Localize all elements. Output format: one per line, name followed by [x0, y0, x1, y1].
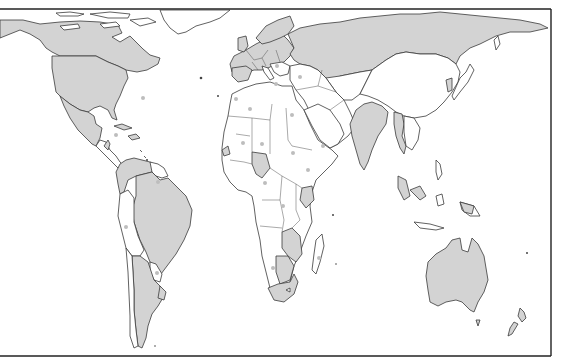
- philippines: [436, 160, 442, 180]
- sakhalin: [494, 36, 500, 50]
- new-guinea: [460, 202, 474, 214]
- sumatra-borneo: [398, 176, 426, 200]
- marker-dot: [141, 96, 145, 100]
- world-map: [0, 0, 562, 364]
- marker-dot: [290, 113, 294, 117]
- marker-dot: [234, 97, 238, 101]
- new-zealand: [508, 308, 526, 336]
- caribbean-dots: [140, 150, 146, 158]
- marker-dot: [114, 133, 118, 137]
- marker-dot: [263, 181, 267, 185]
- map-canvas: [0, 0, 562, 364]
- indochina: [404, 116, 420, 150]
- fiji-islet: [526, 252, 528, 254]
- marker-dot: [271, 266, 275, 270]
- mauritius-islet: [335, 263, 337, 265]
- marker-dot: [317, 256, 321, 260]
- cuba: [114, 124, 132, 130]
- europe: [230, 16, 294, 82]
- greenland: [160, 10, 230, 34]
- trinidad-islet: [146, 159, 148, 161]
- marker-dot: [281, 204, 285, 208]
- india: [350, 102, 388, 170]
- united-states: [52, 56, 128, 120]
- madagascar: [312, 234, 324, 274]
- falklands-islet: [154, 345, 156, 347]
- marker-dot: [274, 82, 278, 86]
- marker-dot: [241, 141, 245, 145]
- marker-dot: [124, 225, 128, 229]
- marker-dot: [291, 151, 295, 155]
- oceania: [426, 238, 526, 336]
- marker-dot: [248, 107, 252, 111]
- arctic-islands: [56, 12, 156, 30]
- marker-dot: [156, 180, 160, 184]
- marker-dot: [321, 144, 325, 148]
- australia: [426, 238, 488, 312]
- tasmania: [476, 320, 480, 326]
- marker-dot: [298, 75, 302, 79]
- hispaniola: [128, 134, 140, 140]
- canary-islet: [217, 95, 219, 97]
- iberia: [232, 66, 252, 82]
- balkans: [270, 62, 290, 76]
- azores-islet: [200, 77, 203, 80]
- marker-dot: [275, 64, 279, 68]
- marker-dot: [260, 142, 264, 146]
- marker-dot: [155, 271, 159, 275]
- marker-dot: [306, 168, 310, 172]
- south-america: [116, 158, 192, 348]
- north-america: [0, 10, 230, 168]
- asia-south-east: [350, 52, 480, 230]
- seychelles-islet: [332, 214, 334, 216]
